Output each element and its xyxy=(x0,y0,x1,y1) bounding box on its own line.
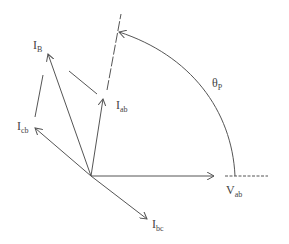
i-ab-phasor-arrow xyxy=(91,99,103,176)
label-i-bc: Ibc xyxy=(152,218,164,233)
construction-line-left xyxy=(35,75,43,117)
label-i-cb: Icb xyxy=(17,120,29,135)
theta-p-angle-arc xyxy=(119,32,235,176)
label-i-b: IB xyxy=(33,39,42,54)
i-bc-phasor-arrow xyxy=(91,176,147,219)
label-theta-p: θP xyxy=(212,77,222,92)
i-ab-extension-dashed-line xyxy=(107,14,121,90)
construction-line-middle xyxy=(69,71,97,94)
label-v-ab: Vab xyxy=(226,184,242,199)
label-i-ab: Iab xyxy=(116,99,128,114)
phasor-diagram xyxy=(0,0,289,244)
